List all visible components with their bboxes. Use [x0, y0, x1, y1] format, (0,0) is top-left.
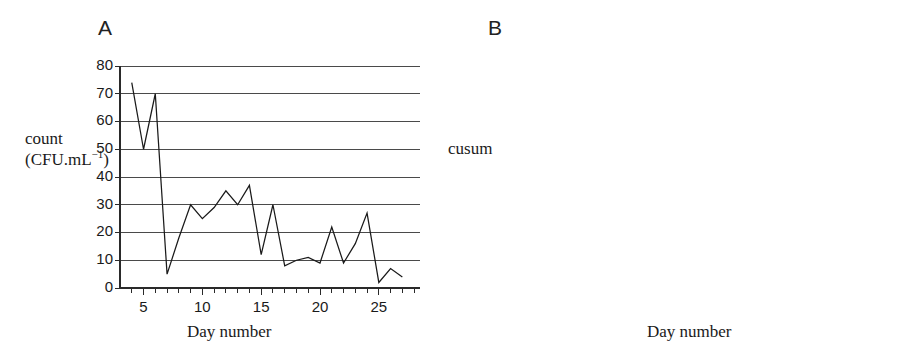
x-ticks-group: 510152025 [132, 288, 414, 315]
y-tick-label-80: 80 [96, 56, 113, 73]
panel-b-letter: B [488, 16, 502, 40]
panel-a-chart-svg: 01020304050607080510152025 [120, 66, 420, 288]
y-tick-label-40: 40 [96, 167, 113, 184]
panel-a-x-axis-label: Day number [187, 322, 272, 342]
panel-b: B cusum 02040608010012014016018020051015… [461, 0, 923, 364]
panel-a: A count (CFU.mL−1) 010203040506070805101… [0, 0, 462, 364]
panel-a-y-axis-label-line2-pre: (CFU.mL [25, 150, 92, 169]
panel-a-letter: A [98, 16, 112, 40]
y-tick-label-30: 30 [96, 195, 113, 212]
panel-b-x-axis-label: Day number [647, 322, 732, 342]
y-tick-label-70: 70 [96, 84, 113, 101]
x-tick-label-20: 20 [312, 298, 329, 315]
y-tick-label-0: 0 [105, 278, 113, 295]
figure-two-panel-timeseries: A count (CFU.mL−1) 010203040506070805101… [0, 0, 923, 364]
panel-a-plot-area: 01020304050607080510152025 [120, 66, 420, 288]
gridlines-group: 01020304050607080 [96, 56, 420, 295]
x-tick-label-25: 25 [370, 298, 387, 315]
y-tick-label-50: 50 [96, 139, 113, 156]
panel-b-y-axis-label: cusum [448, 138, 492, 159]
data-series-line [132, 83, 403, 283]
x-tick-label-15: 15 [253, 298, 270, 315]
panel-a-y-axis-label-line1: count [25, 129, 63, 148]
x-tick-label-10: 10 [194, 298, 211, 315]
y-tick-label-60: 60 [96, 111, 113, 128]
x-tick-label-5: 5 [139, 298, 147, 315]
y-tick-label-20: 20 [96, 222, 113, 239]
y-tick-label-10: 10 [96, 250, 113, 267]
